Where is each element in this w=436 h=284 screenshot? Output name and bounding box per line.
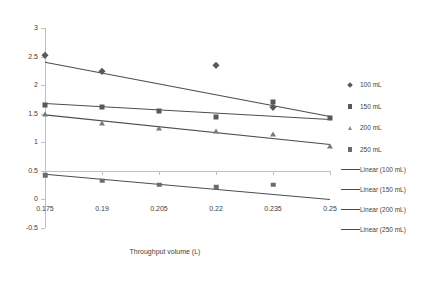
legend-label: 150 mL (360, 102, 382, 111)
y-tick-label: 3 (34, 24, 38, 32)
y-tick-label: 0 (34, 195, 38, 203)
legend-item[interactable]: 200 mL (340, 121, 436, 135)
line-icon (341, 169, 360, 170)
legend-item[interactable]: Linear (150 mL) (340, 184, 436, 195)
legend-key (340, 104, 360, 109)
y-tick-label: -0.5 (26, 224, 38, 232)
x-tick-label: 0.19 (95, 205, 109, 213)
trendline (45, 103, 330, 119)
legend-label: Linear (150 mL) (360, 185, 406, 194)
chart-legend: 100 mL150 mL200 mL250 mLLinear (100 mL)L… (340, 78, 436, 244)
legend-key (340, 83, 360, 87)
data-point-marker (100, 178, 105, 183)
x-tick-label: 0.22 (209, 205, 223, 213)
data-point-marker (271, 182, 276, 187)
data-point-marker (156, 126, 162, 131)
legend-key (340, 147, 360, 152)
legend-item[interactable]: Linear (250 mL) (340, 224, 436, 235)
line-icon (341, 209, 360, 210)
line-icon (341, 189, 360, 190)
legend-key (340, 209, 360, 210)
legend-item[interactable]: Linear (200 mL) (340, 204, 436, 215)
x-tick (330, 171, 331, 175)
square-icon (348, 147, 353, 152)
diamond-icon (347, 82, 353, 88)
data-point-marker (100, 104, 105, 109)
x-tick-label: 0.25 (323, 205, 337, 213)
x-axis-title: Throughput volume (L) (0, 248, 330, 255)
x-tick-label: 0.175 (36, 205, 54, 213)
legend-item[interactable]: 150 mL (340, 100, 436, 114)
data-point-marker (327, 144, 333, 149)
y-tick-label: 1.5 (28, 110, 38, 118)
legend-label: 100 mL (360, 80, 382, 89)
x-tick-label: 0.235 (264, 205, 282, 213)
data-point-marker (214, 115, 219, 120)
data-point-marker (271, 100, 276, 105)
legend-key (340, 126, 360, 130)
y-tick-label: 0.5 (28, 167, 38, 175)
data-point-marker (213, 128, 219, 133)
trendline (45, 174, 330, 199)
legend-item[interactable]: 100 mL (340, 78, 436, 92)
y-tick (41, 228, 45, 229)
y-tick-label: 1 (34, 138, 38, 146)
legend-key (340, 169, 360, 170)
legend-item[interactable]: Linear (100 mL) (340, 164, 436, 175)
data-point-marker (328, 116, 333, 121)
legend-key (340, 229, 360, 230)
legend-label: Linear (100 mL) (360, 165, 406, 174)
legend-label: 200 mL (360, 123, 382, 132)
plot-area (45, 28, 330, 228)
data-point-marker (42, 111, 48, 116)
data-point-marker (157, 109, 162, 114)
data-point-marker (43, 173, 48, 178)
square-icon (348, 104, 353, 109)
data-point-marker (43, 103, 48, 108)
data-point-marker (214, 185, 219, 190)
data-point-marker (270, 131, 276, 136)
y-tick-label: 2 (34, 81, 38, 89)
trendline (45, 62, 330, 116)
chart-container: -0.500.511.522.53 0.1750.190.2050.220.23… (0, 0, 436, 284)
x-tick-label: 0.205 (150, 205, 168, 213)
trendline (45, 115, 330, 145)
legend-key (340, 189, 360, 190)
y-tick-label: 2.5 (28, 53, 38, 61)
legend-item[interactable]: 250 mL (340, 143, 436, 157)
line-icon (341, 229, 360, 230)
triangle-icon (348, 126, 352, 130)
data-point-marker (157, 182, 162, 187)
legend-label: Linear (250 mL) (360, 225, 406, 234)
data-point-marker (99, 121, 105, 126)
legend-label: Linear (200 mL) (360, 205, 406, 214)
legend-label: 250 mL (360, 145, 382, 154)
trendlines-group (45, 28, 330, 228)
